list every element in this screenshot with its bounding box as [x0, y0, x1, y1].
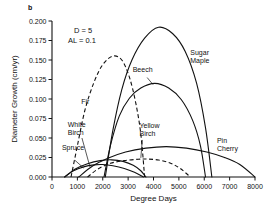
x-tick-label: 4000	[146, 183, 162, 190]
curve-group	[65, 27, 255, 177]
curve-label-yellow-birch: YellowBirch	[140, 122, 161, 137]
x-axis-title: Degree Days	[130, 194, 177, 203]
x-tick-label: 6000	[196, 183, 212, 190]
x-tick-label: 2000	[95, 183, 111, 190]
leader-white-birch	[82, 138, 90, 167]
y-tick-label: 0.075	[29, 115, 47, 122]
available-light-annotation: AL = 0.1	[68, 36, 96, 45]
curve-label-group: FirWhiteBirchSpruceBeechSugarMapleYellow…	[62, 49, 239, 153]
y-tick-label: 0.125	[29, 76, 47, 83]
axis-group: 0.0000.0250.0500.0750.1000.1250.1500.175…	[10, 18, 263, 203]
curve-label-beech: Beech	[133, 66, 153, 73]
y-tick-label: 0.050	[29, 135, 47, 142]
x-tick-label: 3000	[120, 183, 136, 190]
x-tick-label: 5000	[171, 183, 187, 190]
y-tick-label: 0.100	[29, 96, 47, 103]
y-axis-title: Diameter Growth (cm/yr)	[10, 55, 19, 143]
y-tick-label: 0.025	[29, 154, 47, 161]
x-tick-label: 7000	[222, 183, 238, 190]
curve-label-fir: Fir	[81, 98, 90, 105]
figure-panel-b: b 0.0000.0250.0500.0750.1000.1250.1500.1…	[0, 0, 268, 224]
curve-label-pin-cherry: PinCherry	[217, 137, 239, 153]
chart-canvas: 0.0000.0250.0500.0750.1000.1250.1500.175…	[0, 0, 268, 224]
curve-label-sugar-maple: SugarMaple	[190, 49, 209, 65]
x-tick-label: 8000	[247, 183, 263, 190]
y-tick-label: 0.200	[29, 18, 47, 25]
x-tick-label: 0	[50, 183, 54, 190]
y-tick-label: 0.000	[29, 174, 47, 181]
y-tick-label: 0.150	[29, 57, 47, 64]
annotation-group: D = 5AL = 0.1	[68, 26, 96, 45]
curve-label-spruce: Spruce	[62, 144, 84, 152]
curve-label-white-birch: WhiteBirch	[68, 121, 86, 136]
density-annotation: D = 5	[74, 26, 92, 35]
x-tick-label: 1000	[70, 183, 86, 190]
y-tick-label: 0.175	[29, 37, 47, 44]
